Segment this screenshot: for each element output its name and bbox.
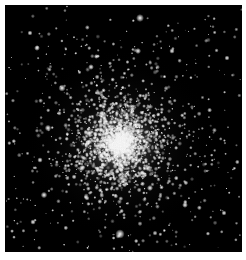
globular-cluster-image xyxy=(5,5,242,252)
cluster-image-frame xyxy=(5,5,242,252)
